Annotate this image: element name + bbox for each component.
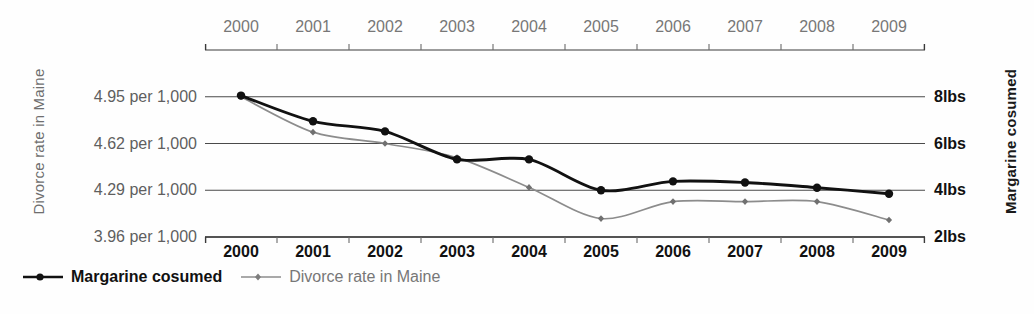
series-line bbox=[241, 96, 889, 194]
bottom-tick-2002: 2002 bbox=[367, 243, 403, 261]
bottom-tick-2004: 2004 bbox=[511, 243, 547, 261]
left-tick-4.29: 4.29 per 1,000 bbox=[94, 181, 197, 199]
right-tick-4: 4lbs bbox=[934, 181, 966, 199]
right-tick-8: 8lbs bbox=[934, 88, 966, 106]
legend-label-margarine: Margarine cosumed bbox=[71, 268, 222, 286]
data-point-2006[interactable] bbox=[670, 198, 676, 205]
data-point-2007[interactable] bbox=[742, 198, 748, 205]
left-tick-4.62: 4.62 per 1,000 bbox=[94, 135, 197, 153]
legend-marker-gray-line bbox=[240, 270, 282, 284]
legend-label-divorce: Divorce rate in Maine bbox=[289, 268, 440, 286]
data-point-2005[interactable] bbox=[598, 215, 604, 222]
bottom-tick-2008: 2008 bbox=[799, 243, 835, 261]
series-divorce-rate bbox=[238, 93, 892, 223]
data-point-2005[interactable] bbox=[597, 186, 605, 194]
top-tick-2009: 2009 bbox=[871, 18, 907, 36]
right-tick-6: 6lbs bbox=[934, 135, 966, 153]
data-point-2001[interactable] bbox=[309, 117, 317, 125]
chart-root: Divorce rate in Maine Margarine cosumed … bbox=[0, 0, 1034, 314]
plot-area bbox=[205, 50, 925, 237]
top-tick-2001: 2001 bbox=[295, 18, 331, 36]
top-tick-2004: 2004 bbox=[511, 18, 547, 36]
bottom-tick-2001: 2001 bbox=[295, 243, 331, 261]
data-point-2009[interactable] bbox=[885, 190, 893, 198]
data-point-2008[interactable] bbox=[814, 198, 820, 205]
data-point-2002[interactable] bbox=[382, 140, 388, 147]
data-point-2002[interactable] bbox=[381, 127, 389, 135]
legend-item-divorce[interactable]: Divorce rate in Maine bbox=[240, 268, 440, 286]
top-tick-2002: 2002 bbox=[367, 18, 403, 36]
data-point-2001[interactable] bbox=[310, 129, 316, 136]
data-point-2008[interactable] bbox=[813, 183, 821, 191]
top-tick-2006: 2006 bbox=[655, 18, 691, 36]
data-point-2007[interactable] bbox=[741, 178, 749, 186]
data-point-2009[interactable] bbox=[886, 217, 892, 224]
bottom-tick-2007: 2007 bbox=[727, 243, 763, 261]
data-point-2006[interactable] bbox=[669, 177, 677, 185]
left-axis-title: Divorce rate in Maine bbox=[30, 42, 47, 242]
legend-marker-dark-line bbox=[22, 270, 64, 284]
bottom-tick-2005: 2005 bbox=[583, 243, 619, 261]
bottom-tick-2006: 2006 bbox=[655, 243, 691, 261]
legend-item-margarine[interactable]: Margarine cosumed bbox=[22, 268, 222, 286]
bottom-tick-2000: 2000 bbox=[223, 243, 259, 261]
bottom-tick-2003: 2003 bbox=[439, 243, 475, 261]
chart-legend: Margarine cosumed Divorce rate in Maine bbox=[22, 268, 440, 286]
top-tick-2003: 2003 bbox=[439, 18, 475, 36]
series-line bbox=[241, 97, 889, 220]
bottom-tick-2009: 2009 bbox=[871, 243, 907, 261]
left-tick-3.96: 3.96 per 1,000 bbox=[94, 228, 197, 246]
series-margarine bbox=[237, 91, 893, 198]
left-tick-4.95: 4.95 per 1,000 bbox=[94, 88, 197, 106]
top-tick-2000: 2000 bbox=[223, 18, 259, 36]
data-point-2003[interactable] bbox=[453, 155, 461, 163]
top-tick-2007: 2007 bbox=[727, 18, 763, 36]
data-point-2000[interactable] bbox=[237, 91, 245, 99]
top-tick-2005: 2005 bbox=[583, 18, 619, 36]
line-chart-svg bbox=[205, 50, 925, 237]
right-axis-title: Margarine cosumed bbox=[1002, 42, 1019, 242]
data-point-2004[interactable] bbox=[525, 155, 533, 163]
top-tick-2008: 2008 bbox=[799, 18, 835, 36]
right-tick-2: 2lbs bbox=[934, 228, 966, 246]
